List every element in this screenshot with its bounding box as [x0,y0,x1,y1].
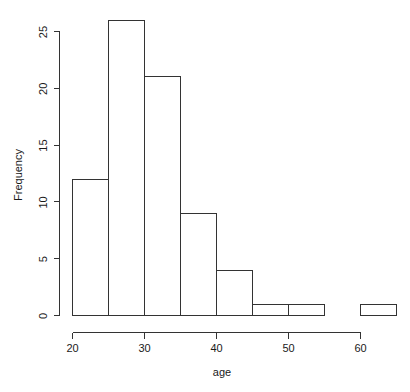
histogram-bar [253,304,289,315]
y-axis-title: Frequency [12,149,24,201]
x-tick-label: 30 [138,342,150,354]
histogram-bar [109,20,145,315]
y-tick-label: 5 [37,256,49,262]
x-tick-label: 20 [66,342,78,354]
y-tick-label: 25 [37,26,49,38]
x-axis-title: age [213,366,231,378]
bars-group [73,20,397,315]
histogram-bar [289,304,325,315]
x-tick-labels: 2030405060 [66,342,366,354]
y-axis [54,32,60,316]
y-tick-label: 20 [37,83,49,95]
histogram-bar [361,304,397,315]
y-tick-label: 0 [37,313,49,319]
x-tick-label: 60 [354,342,366,354]
histogram-bar [145,77,181,316]
plot-canvas: 0510152025 2030405060 Frequency age [0,0,410,392]
histogram-plot: 0510152025 2030405060 Frequency age [0,0,410,392]
y-tick-label: 15 [37,139,49,151]
histogram-bar [181,213,217,315]
histogram-bar [217,270,253,315]
y-tick-labels: 0510152025 [37,26,49,319]
y-tick-label: 10 [37,196,49,208]
x-tick-label: 40 [210,342,222,354]
histogram-bar [73,179,109,315]
x-tick-label: 50 [282,342,294,354]
x-axis [73,333,361,339]
